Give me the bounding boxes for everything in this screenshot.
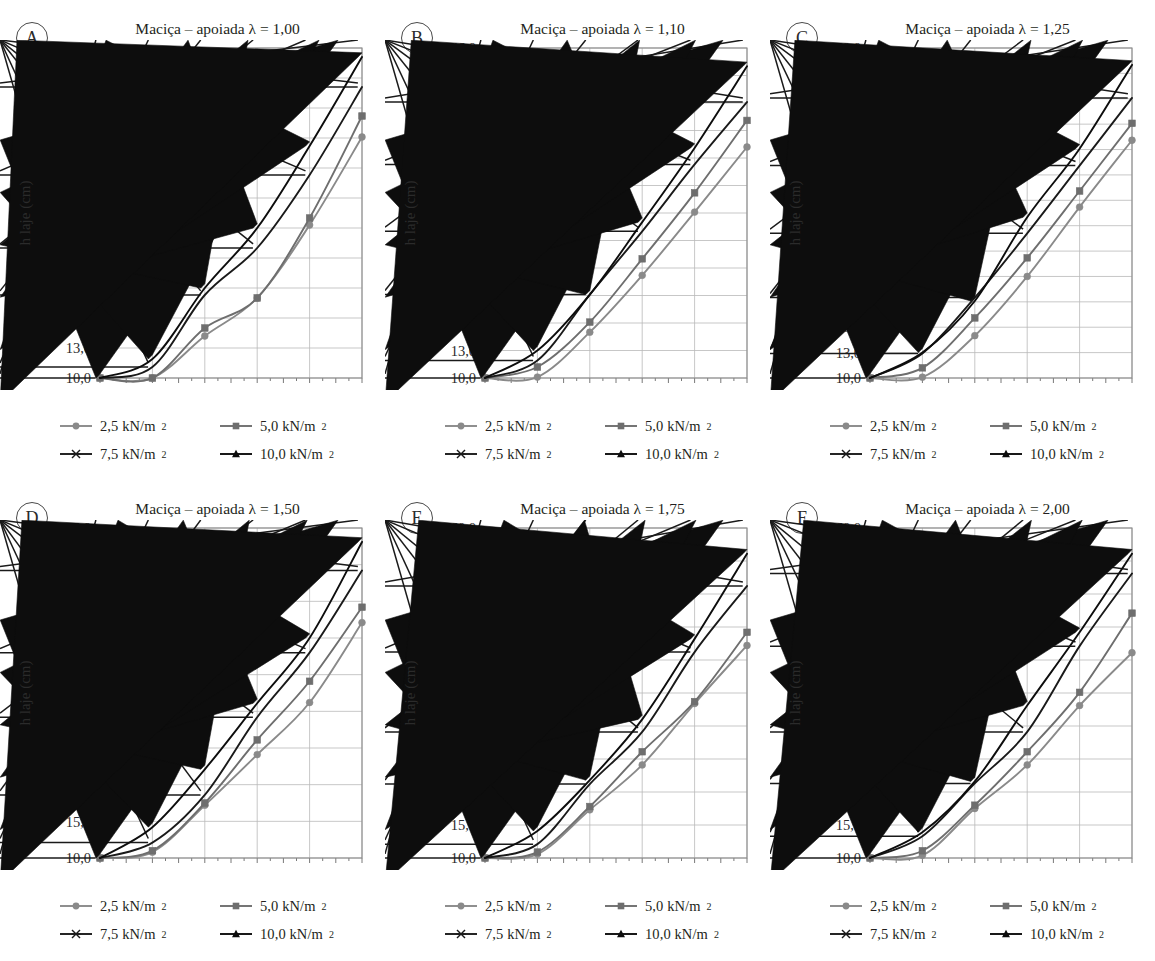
- legend-marker-square-icon: [988, 419, 1024, 433]
- svg-text:10: 10: [302, 867, 317, 870]
- legend-label-superscript: 2: [162, 421, 167, 432]
- legend-label-superscript: 2: [162, 929, 167, 940]
- svg-text:5: 5: [560, 387, 567, 390]
- plot-area: 10,015,020,025,030,035,040,045,050,055,0…: [770, 520, 1155, 870]
- legend-marker-circle-icon: [58, 419, 94, 433]
- chart-legend: 2,5 kN/m2 5,0 kN/m2 7,5 kN/m2 10,0 kN/m2: [828, 412, 1148, 468]
- legend-label: 7,5 kN/m: [485, 926, 541, 943]
- svg-text:10: 10: [1072, 387, 1087, 390]
- svg-text:7: 7: [997, 867, 1004, 870]
- svg-text:h laje (cm): h laje (cm): [402, 661, 419, 726]
- plot-area: 10,015,020,025,030,035,040,045,050,055,0…: [385, 520, 770, 870]
- legend-marker-asterisk-icon: [828, 927, 864, 941]
- legend-marker-asterisk-icon: [58, 927, 94, 941]
- legend-item-1: 5,0 kN/m2: [988, 898, 1148, 915]
- legend-label: 2,5 kN/m: [100, 898, 156, 915]
- legend-label: 10,0 kN/m: [1030, 926, 1093, 943]
- chart-legend: 2,5 kN/m2 5,0 kN/m2 7,5 kN/m2 10,0 kN/m2: [443, 412, 763, 468]
- svg-text:2: 2: [96, 867, 103, 870]
- legend-label-superscript: 2: [1092, 901, 1097, 912]
- svg-text:4: 4: [919, 387, 927, 390]
- panel-title: Maciça – apoiada λ = 1,75: [445, 500, 760, 518]
- legend-label-superscript: 2: [547, 449, 552, 460]
- legend-marker-square-icon: [988, 899, 1024, 913]
- legend-label-superscript: 2: [547, 929, 552, 940]
- legend-label: 2,5 kN/m: [870, 418, 926, 435]
- legend-item-2: 7,5 kN/m2: [443, 446, 603, 463]
- legend-marker-triangle-icon: [988, 447, 1024, 461]
- chart-legend: 2,5 kN/m2 5,0 kN/m2 7,5 kN/m2 10,0 kN/m2: [58, 892, 378, 948]
- legend-item-1: 5,0 kN/m2: [603, 418, 763, 435]
- svg-text:3: 3: [893, 867, 900, 870]
- legend-label-superscript: 2: [714, 929, 719, 940]
- svg-text:5: 5: [560, 867, 567, 870]
- legend-marker-asterisk-icon: [443, 927, 479, 941]
- svg-text:2: 2: [866, 867, 873, 870]
- svg-text:5: 5: [945, 867, 952, 870]
- svg-text:6: 6: [586, 867, 593, 870]
- legend-label: 10,0 kN/m: [260, 926, 323, 943]
- legend-label-superscript: 2: [329, 929, 334, 940]
- legend-label: 2,5 kN/m: [100, 418, 156, 435]
- svg-text:4: 4: [534, 387, 542, 390]
- legend-item-3: 10,0 kN/m2: [603, 926, 763, 943]
- legend-item-2: 7,5 kN/m2: [58, 446, 218, 463]
- svg-text:9: 9: [280, 867, 287, 870]
- svg-text:5: 5: [175, 387, 182, 390]
- svg-text:3: 3: [123, 867, 130, 870]
- legend-label: 5,0 kN/m: [260, 898, 316, 915]
- legend-label: 10,0 kN/m: [260, 446, 323, 463]
- legend-item-1: 5,0 kN/m2: [603, 898, 763, 915]
- legend-marker-triangle-icon: [218, 927, 254, 941]
- svg-text:7: 7: [612, 867, 619, 870]
- panel-title: Maciça – apoiada λ = 1,50: [60, 500, 375, 518]
- svg-text:10: 10: [1072, 867, 1087, 870]
- svg-text:6: 6: [201, 387, 208, 390]
- legend-label: 7,5 kN/m: [870, 926, 926, 943]
- svg-text:10: 10: [687, 387, 702, 390]
- line-chart-svg: 10,015,020,025,030,035,040,045,050,055,0…: [0, 520, 385, 870]
- figure-panel-grid: A Maciça – apoiada λ = 1,00 10,013,016,0…: [0, 0, 1155, 961]
- legend-label: 7,5 kN/m: [100, 926, 156, 943]
- line-chart-svg: 10,015,020,025,030,035,040,045,050,055,0…: [770, 520, 1155, 870]
- legend-label: 10,0 kN/m: [645, 446, 708, 463]
- legend-marker-triangle-icon: [603, 447, 639, 461]
- svg-text:10: 10: [302, 387, 317, 390]
- legend-marker-circle-icon: [828, 419, 864, 433]
- legend-label: 7,5 kN/m: [485, 446, 541, 463]
- svg-text:h laje (cm): h laje (cm): [787, 181, 804, 246]
- legend-item-3: 10,0 kN/m2: [988, 446, 1148, 463]
- legend-item-3: 10,0 kN/m2: [988, 926, 1148, 943]
- chart-panel-b: B Maciça – apoiada λ = 1,10 10,013,016,0…: [385, 0, 770, 480]
- svg-text:2: 2: [96, 387, 103, 390]
- legend-label: 7,5 kN/m: [870, 446, 926, 463]
- legend-item-2: 7,5 kN/m2: [828, 446, 988, 463]
- legend-label: 2,5 kN/m: [870, 898, 926, 915]
- svg-text:2: 2: [481, 867, 488, 870]
- svg-text:3: 3: [508, 867, 515, 870]
- svg-text:11: 11: [714, 387, 728, 390]
- legend-label-superscript: 2: [1099, 929, 1104, 940]
- svg-text:9: 9: [280, 387, 287, 390]
- legend-item-3: 10,0 kN/m2: [218, 926, 378, 943]
- chart-legend: 2,5 kN/m2 5,0 kN/m2 7,5 kN/m2 10,0 kN/m2: [828, 892, 1148, 948]
- panel-title: Maciça – apoiada λ = 1,10: [445, 20, 760, 38]
- svg-text:h laje (cm): h laje (cm): [17, 181, 34, 246]
- legend-label: 10,0 kN/m: [1030, 446, 1093, 463]
- legend-label-superscript: 2: [1099, 449, 1104, 460]
- svg-text:3: 3: [508, 387, 515, 390]
- svg-text:11: 11: [714, 867, 728, 870]
- plot-area: 10,013,016,019,022,025,028,031,034,037,0…: [0, 40, 385, 390]
- svg-text:11: 11: [329, 867, 343, 870]
- legend-item-2: 7,5 kN/m2: [828, 926, 988, 943]
- svg-text:3: 3: [893, 387, 900, 390]
- svg-text:12: 12: [1125, 867, 1140, 870]
- legend-marker-triangle-icon: [218, 447, 254, 461]
- legend-label: 7,5 kN/m: [100, 446, 156, 463]
- svg-text:4: 4: [919, 867, 927, 870]
- svg-text:8: 8: [639, 387, 646, 390]
- svg-text:8: 8: [254, 867, 261, 870]
- legend-label: 2,5 kN/m: [485, 418, 541, 435]
- svg-text:11: 11: [1099, 387, 1113, 390]
- legend-marker-circle-icon: [443, 419, 479, 433]
